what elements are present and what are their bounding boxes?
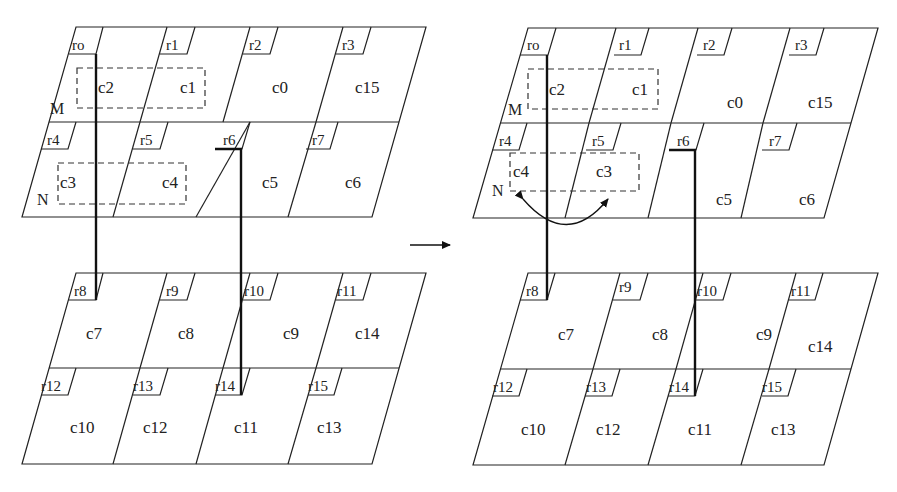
register-tab-r15: r15 (762, 369, 796, 396)
cell: c5 (262, 173, 278, 192)
register-tab-r2: r2 (697, 28, 732, 55)
register-tab-r14: r14 (215, 368, 250, 395)
svg-text:r4: r4 (499, 133, 512, 149)
register-tab-r13: r13 (585, 369, 620, 396)
cell: c14 (355, 324, 380, 343)
cell: c12 (596, 420, 621, 439)
cell: c11 (234, 418, 258, 437)
cell: c1 (180, 78, 196, 97)
before-bottom-layer: r8 r9 r10 r11 r12 r13 (22, 273, 426, 464)
register-tab-r4: r4 (41, 122, 76, 149)
cell: c7 (558, 325, 575, 344)
cell: c5 (716, 190, 732, 209)
register-tab-ro: ro (520, 28, 556, 55)
svg-text:ro: ro (72, 37, 85, 53)
svg-text:r12: r12 (41, 378, 61, 394)
svg-text:r5: r5 (592, 133, 605, 149)
cell: c13 (317, 418, 342, 437)
svg-text:r10: r10 (697, 283, 717, 299)
cell: c7 (86, 324, 103, 343)
svg-text:r9: r9 (619, 279, 632, 295)
cell: c9 (756, 325, 772, 344)
svg-text:r14: r14 (669, 379, 689, 395)
cell: c1 (632, 80, 648, 99)
register-tab-r5: r5 (586, 123, 621, 150)
cell: c8 (178, 324, 194, 343)
group-n-label: N (492, 182, 504, 199)
svg-text:r2: r2 (703, 37, 716, 53)
register-tab-r6: r6 (669, 123, 704, 150)
group-n-label: N (37, 191, 49, 208)
svg-text:r12: r12 (493, 379, 513, 395)
svg-text:r3: r3 (795, 37, 808, 53)
svg-text:r15: r15 (308, 378, 328, 394)
swap-arrow-icon (523, 199, 608, 225)
group-m-label: M (50, 100, 64, 117)
cell: c4 (513, 162, 530, 181)
cell: c15 (355, 78, 380, 97)
cell: c6 (345, 173, 361, 192)
svg-text:r8: r8 (74, 283, 87, 299)
before-panel: ro r1 r2 r3 r4 r5 (22, 27, 426, 464)
svg-text:r13: r13 (133, 378, 153, 394)
register-tab-r7: r7 (306, 122, 338, 149)
cell: c12 (143, 418, 168, 437)
diagram-canvas: ro r1 r2 r3 r4 r5 (0, 0, 897, 492)
after-panel: ro r1 r2 r3 r4 r5 (473, 28, 878, 465)
svg-text:r1: r1 (619, 37, 632, 53)
cell: c4 (162, 173, 179, 192)
register-tab-r4: r4 (492, 123, 527, 150)
cell: c14 (808, 337, 833, 356)
cell: c15 (808, 93, 833, 112)
svg-text:r7: r7 (769, 133, 782, 149)
group-n-box (510, 153, 639, 191)
register-tab-r14: r14 (668, 369, 703, 396)
cell: c8 (652, 325, 668, 344)
before-top-layer: ro r1 r2 r3 r4 r5 (22, 27, 426, 217)
cell: c10 (521, 420, 546, 439)
svg-text:r11: r11 (791, 283, 810, 299)
after-bottom-layer: r8 r9 r10 r11 r12 r13 (473, 273, 878, 465)
register-tab-r7: r7 (762, 123, 797, 150)
svg-text:r13: r13 (586, 379, 606, 395)
svg-text:r6: r6 (677, 133, 690, 149)
svg-text:ro: ro (527, 37, 540, 53)
register-tab-r8: r8 (69, 273, 103, 300)
cell: c9 (283, 324, 299, 343)
svg-text:r9: r9 (166, 283, 179, 299)
cell: c3 (596, 162, 612, 181)
register-tab-r15: r15 (308, 368, 342, 395)
cell: c13 (771, 420, 796, 439)
svg-text:r10: r10 (244, 283, 264, 299)
svg-text:r15: r15 (762, 379, 782, 395)
cell: c0 (272, 78, 288, 97)
svg-text:r5: r5 (140, 132, 153, 148)
register-tab-r11: r11 (789, 273, 823, 300)
cell: c6 (799, 190, 815, 209)
svg-text:r14: r14 (215, 378, 235, 394)
svg-text:r6: r6 (223, 132, 236, 148)
cell: c2 (549, 80, 565, 99)
register-tab-r6: r6 (215, 122, 250, 149)
register-tab-r3: r3 (789, 28, 824, 55)
after-top-layer: ro r1 r2 r3 r4 r5 (473, 28, 878, 225)
wire-r6-r14 (215, 149, 241, 395)
svg-text:r8: r8 (526, 283, 539, 299)
register-tab-r1: r1 (614, 28, 649, 55)
cell: c3 (60, 173, 76, 192)
svg-text:r2: r2 (249, 37, 262, 53)
register-tab-r12: r12 (492, 369, 527, 396)
cell: c2 (98, 78, 114, 97)
svg-text:r7: r7 (312, 132, 325, 148)
cell: c0 (727, 93, 743, 112)
svg-text:r1: r1 (166, 37, 179, 53)
register-tab-ro: ro (69, 27, 103, 54)
cell: c10 (70, 418, 95, 437)
svg-text:r4: r4 (47, 132, 60, 148)
group-m-label: M (508, 101, 522, 118)
svg-text:r11: r11 (337, 283, 356, 299)
register-tab-r8: r8 (520, 273, 555, 300)
cell: c11 (688, 420, 712, 439)
svg-text:r3: r3 (342, 37, 355, 53)
register-tab-r12: r12 (41, 368, 76, 395)
